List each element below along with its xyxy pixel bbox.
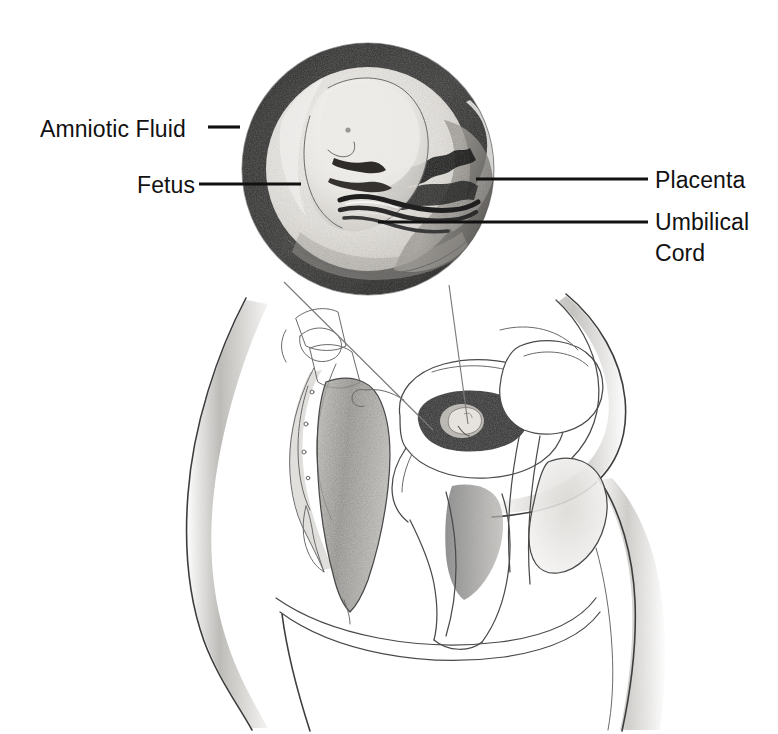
label-umbilical-cord-line1: Umbilical [655, 209, 749, 235]
label-placenta: Placenta [655, 167, 745, 193]
fetal-development-figure: Amniotic Fluid Fetus Placenta Umbilical … [0, 0, 778, 734]
figure-canvas: Amniotic Fluid Fetus Placenta Umbilical … [0, 0, 778, 734]
magnified-uterus-inset [242, 43, 496, 295]
fetus-eye [345, 127, 350, 132]
label-amniotic-fluid: Amniotic Fluid [40, 116, 186, 142]
label-umbilical-cord-line2: Cord [655, 240, 705, 266]
label-fetus: Fetus [137, 172, 195, 198]
fetus-in-situ [440, 404, 484, 438]
